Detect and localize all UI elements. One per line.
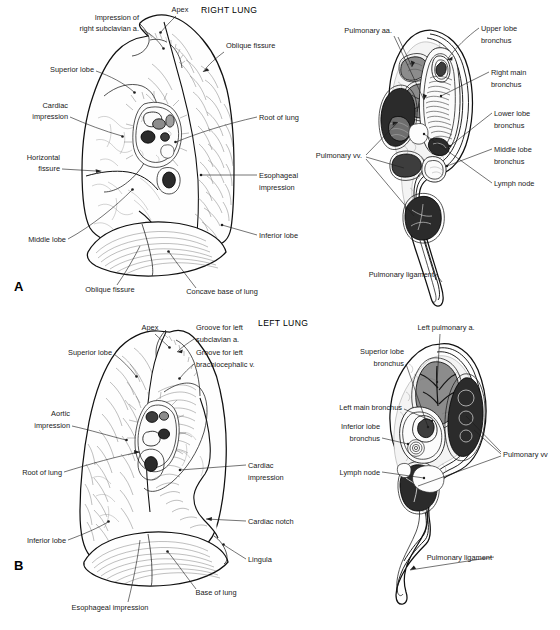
label-oblique-fissure-top: Oblique fissure <box>226 41 275 50</box>
left-hilum-lymph-node <box>413 466 444 493</box>
left-pulmonary-artery-cut <box>146 412 158 423</box>
pointer-dot-base-of-lung <box>166 550 169 553</box>
pointer-dot-superior-lobe <box>133 91 136 94</box>
label-superior-lobe-bronchus-line2: bronchus <box>374 359 405 368</box>
label-pulmonary-ligament-right: Pulmonary ligament <box>369 270 434 279</box>
label-concave-base: Concave base of lung <box>186 287 258 296</box>
label-impression-subclavian-line2: right subclavian a. <box>79 24 139 33</box>
label-inferior-lobe-bronchus-line1: Inferior lobe <box>341 422 380 431</box>
label-inferior-lobe-bronchus-line2: bronchus <box>350 434 381 443</box>
right-superior-pulmonary-vein-cut <box>141 131 155 143</box>
label-left-pulmonary-a: Left pulmonary a. <box>417 323 474 332</box>
panel-a-title: RIGHT LUNG <box>201 5 257 15</box>
label-root-of-lung: Root of lung <box>259 113 299 122</box>
right-pulmonary-vein-basal <box>405 196 441 240</box>
pointer-dot-left-pulmonary-a <box>436 381 438 383</box>
figure-canvas: RIGHT LUNG A Impression of right subclav… <box>0 0 560 630</box>
pointer-dot-right-main-bronchus <box>440 95 442 97</box>
label-groove-brachiocephalic-line1: Groove for left <box>196 348 243 357</box>
panel-a-right-lung-medial: RIGHT LUNG A Impression of right subclav… <box>14 5 299 296</box>
lung-anatomy-figure: RIGHT LUNG A Impression of right subclav… <box>0 0 560 630</box>
pointer-dot-root-of-lung <box>174 141 177 144</box>
pointer-dot-middle-lobe-bronchus <box>446 165 448 167</box>
label-aortic-impression-line2: impression <box>34 421 70 430</box>
right-inferior-pulmonary-vein-cut <box>163 172 176 188</box>
panel-b-key: B <box>14 558 23 573</box>
panel-a-hilum-cross-section: Pulmonary aa. Upper lobe bronchus Right … <box>316 24 535 306</box>
left-hilum-small-node <box>397 463 411 477</box>
label-superior-lobe-left: Superior lobe <box>68 348 112 357</box>
pointer-dot-subclavian <box>162 47 165 50</box>
label-horizontal-fissure-line2: fissure <box>38 164 60 173</box>
label-inferior-lobe: Inferior lobe <box>259 231 298 240</box>
pointer-dot-lingula <box>222 543 225 546</box>
label-oblique-fissure-bottom: Oblique fissure <box>85 285 134 294</box>
label-groove-brachiocephalic-line2: brachiocephalic v. <box>196 360 255 369</box>
label-lower-lobe-bronchus-line1: Lower lobe <box>494 109 530 118</box>
panel-a-key: A <box>14 279 24 294</box>
label-cardiac-impression-left-line1: Cardiac <box>248 461 274 470</box>
pointer-dot-superior-lobe-bronchus <box>427 426 429 428</box>
right-pulmonary-artery-cut <box>153 119 166 129</box>
pointer-dot-concave-base <box>167 250 170 253</box>
pointer-dot-lymph-node-right <box>423 133 425 135</box>
label-esophageal-impression-line1: Esophageal <box>259 171 298 180</box>
pointer-dot-inferior-lobe <box>221 224 224 227</box>
pointer-dot-superior-lobe-left <box>135 375 138 378</box>
right-hilum-pleural-reflection <box>133 102 182 167</box>
pointer-dot-inferior-lobe-left <box>107 520 110 523</box>
panel-b-hilum-cross-section: Left pulmonary a. Superior lobe bronchus… <box>339 323 548 604</box>
label-cardiac-impression-left-line2: impression <box>248 473 284 482</box>
pointer-dot-apex-left <box>168 346 171 349</box>
label-pulmonary-ligament-left: Pulmonary ligament <box>427 553 492 562</box>
label-pulmonary-vv-right: Pulmonary vv. <box>316 151 362 160</box>
pointer-dot-aortic-impression <box>125 439 128 442</box>
label-esophageal-impression-line2: impression <box>259 183 295 192</box>
pointer-dot-lower-lobe-bronchus <box>449 145 451 147</box>
pointer-dot-cardiac-impression <box>121 135 124 138</box>
pointer-dot-inferior-lobe-bronchus <box>407 443 409 445</box>
label-upper-lobe-bronchus-line1: Upper lobe <box>481 24 517 33</box>
label-inferior-lobe-left: Inferior lobe <box>27 536 66 545</box>
label-aortic-impression-line1: Aortic <box>51 409 70 418</box>
label-apex: Apex <box>172 5 189 14</box>
pointer-dot-left-main-bronchus <box>431 420 433 422</box>
label-pulmonary-vv-left: Pulmonary vv <box>503 450 548 459</box>
label-lymph-node-left: Lymph node <box>340 468 380 477</box>
label-right-main-bronchus-line2: bronchus <box>491 80 522 89</box>
label-cardiac-impression-line2: impression <box>32 112 68 121</box>
label-horizontal-fissure-line1: Horizontal <box>27 153 61 162</box>
right-pulmonary-artery-branch-cut <box>166 115 174 127</box>
label-middle-lobe: Middle lobe <box>28 235 66 244</box>
label-impression-subclavian-line1: Impression of <box>95 13 140 22</box>
label-upper-lobe-bronchus-line2: bronchus <box>481 36 512 45</box>
label-middle-lobe-bronchus-line2: bronchus <box>494 157 525 166</box>
label-groove-subclavian-line1: Groove for left <box>196 323 243 332</box>
label-groove-subclavian-line2: subclavian a. <box>196 335 239 344</box>
right-hilar-lymph-node <box>161 145 174 158</box>
pointer-dot-cardiac-impression-left <box>179 469 182 472</box>
label-base-of-lung: Base of lung <box>195 588 236 597</box>
left-main-bronchus-cut <box>143 431 160 446</box>
label-root-of-lung-left: Root of lung <box>22 468 62 477</box>
label-lymph-node-right: Lymph node <box>494 179 534 188</box>
label-superior-lobe: Superior lobe <box>50 65 94 74</box>
label-apex-left: Apex <box>142 323 159 332</box>
label-esophageal-impression-left: Esophageal impression <box>72 603 149 612</box>
left-pulmonary-vein-superior-cut <box>158 429 169 439</box>
label-superior-lobe-bronchus-line1: Superior lobe <box>360 347 404 356</box>
pointer-dot-groove-brachiocephalic <box>178 377 181 380</box>
pointer-dot-esophageal-impression <box>200 174 203 177</box>
label-pulmonary-aa: Pulmonary aa. <box>344 26 392 35</box>
panel-b-left-lung-medial: LEFT LUNG B Apex Groove for left subclav… <box>14 318 308 612</box>
left-inferior-pulmonary-vein-cut <box>145 457 158 472</box>
label-right-main-bronchus-line1: Right main <box>491 68 526 77</box>
right-pulmonary-vein-branch-cut <box>161 133 170 141</box>
pointer-dot-lymph-node-left <box>423 477 425 479</box>
pointer-dot-apex <box>159 31 162 34</box>
left-pulmonary-artery-branch-cut <box>159 412 168 420</box>
pointer-dot-middle-lobe <box>131 188 134 191</box>
label-cardiac-notch: Cardiac notch <box>248 517 294 526</box>
panel-b-title: LEFT LUNG <box>258 318 308 328</box>
label-cardiac-impression-line1: Cardiac <box>43 101 69 110</box>
